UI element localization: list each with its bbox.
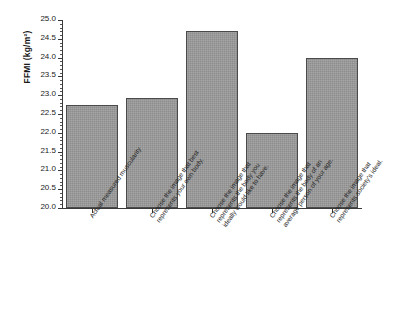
y-tick-minor (60, 118, 62, 119)
y-tick-minor (60, 103, 62, 104)
y-tick-minor (60, 24, 62, 25)
y-tick-minor (60, 174, 62, 175)
y-tick-mark (58, 133, 62, 134)
y-tick-minor (60, 91, 62, 92)
y-tick-minor (60, 46, 62, 47)
y-tick-minor (60, 200, 62, 201)
y-tick-minor (60, 110, 62, 111)
y-tick-minor (60, 204, 62, 205)
y-tick-minor (60, 125, 62, 126)
y-tick-label: 22.0 (40, 127, 56, 136)
y-axis-line (62, 20, 63, 209)
y-tick-mark (58, 39, 62, 40)
y-tick-minor (60, 178, 62, 179)
y-tick-minor (60, 122, 62, 123)
y-tick-mark (58, 95, 62, 96)
y-tick-minor (60, 163, 62, 164)
y-tick-minor (60, 69, 62, 70)
y-tick-minor (60, 61, 62, 62)
y-tick-minor (60, 43, 62, 44)
y-tick-minor (60, 167, 62, 168)
y-tick-mark (58, 208, 62, 209)
y-tick-label: 22.5 (40, 108, 56, 117)
y-tick-minor (60, 137, 62, 138)
y-tick-label: 24.5 (40, 33, 56, 42)
y-tick-minor (60, 106, 62, 107)
y-tick-mark (58, 152, 62, 153)
y-tick-mark (58, 189, 62, 190)
y-tick-minor (60, 80, 62, 81)
y-tick-minor (60, 28, 62, 29)
y-tick-minor (60, 144, 62, 145)
y-tick-minor (60, 84, 62, 85)
y-tick-minor (60, 148, 62, 149)
y-tick-mark (58, 20, 62, 21)
y-tick-minor (60, 73, 62, 74)
y-tick-label: 20.5 (40, 183, 56, 192)
y-tick-minor (60, 182, 62, 183)
y-tick-mark (58, 170, 62, 171)
y-tick-minor (60, 35, 62, 36)
y-tick-minor (60, 65, 62, 66)
y-tick-mark (58, 76, 62, 77)
y-tick-label: 24.0 (40, 52, 56, 61)
y-tick-minor (60, 54, 62, 55)
y-tick-minor (60, 129, 62, 130)
y-tick-minor (60, 159, 62, 160)
y-tick-label: 21.5 (40, 146, 56, 155)
y-tick-label: 23.5 (40, 70, 56, 79)
y-tick-mark (58, 114, 62, 115)
y-tick-minor (60, 31, 62, 32)
y-tick-label: 21.0 (40, 164, 56, 173)
y-tick-label: 25.0 (40, 14, 56, 23)
y-tick-minor (60, 50, 62, 51)
y-tick-minor (60, 140, 62, 141)
y-axis-title: FFMI (kg/m²) (22, 0, 32, 117)
y-tick-minor (60, 155, 62, 156)
y-tick-minor (60, 193, 62, 194)
y-tick-minor (60, 185, 62, 186)
y-tick-mark (58, 58, 62, 59)
chart-figure: FFMI (kg/m²) 25.024.524.023.523.022.522.… (0, 0, 395, 318)
y-tick-minor (60, 88, 62, 89)
y-tick-label: 23.0 (40, 89, 56, 98)
y-tick-minor (60, 197, 62, 198)
y-tick-minor (60, 99, 62, 100)
y-tick-label: 20.0 (40, 202, 56, 211)
